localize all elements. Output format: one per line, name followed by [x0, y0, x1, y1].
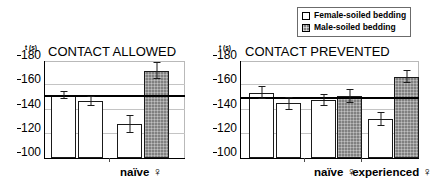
plot-area-left: 100120140160180: [44, 61, 185, 159]
error-bar: [51, 91, 76, 99]
error-bar-cap-bottom: [320, 105, 327, 106]
error-bar-stem: [129, 115, 130, 133]
x-axis-group-separator: [109, 158, 110, 162]
error-bar: [394, 70, 419, 83]
y-axis-tick-label: 120: [21, 122, 45, 134]
y-axis-tick-label: 140: [21, 98, 45, 110]
y-axis-tick-label: 140: [217, 98, 241, 110]
bar: [337, 96, 362, 158]
y-axis-tick-mark: [17, 79, 21, 80]
y-axis-tick-label: 160: [21, 73, 45, 85]
error-bar-cap-bottom: [285, 109, 292, 110]
error-bar: [78, 96, 103, 106]
error-bar: [276, 97, 301, 109]
legend-item-female: Female-soiled bedding: [302, 10, 406, 21]
figure-container: Female-soiled bedding Male-soiled beddin…: [0, 0, 431, 191]
legend: Female-soiled bedding Male-soiled beddin…: [297, 7, 411, 37]
y-axis-tick-label: 180: [217, 49, 241, 61]
plot-area-right: 100120140160180: [240, 61, 419, 159]
y-axis-tick-mark: [17, 55, 21, 56]
legend-label-male: Male-soiled bedding: [314, 23, 396, 32]
y-axis-tick-mark: [17, 104, 21, 105]
error-bar: [249, 86, 274, 98]
legend-item-male: Male-soiled bedding: [302, 22, 406, 33]
error-bar: [144, 62, 169, 79]
error-bar-cap-top: [87, 96, 94, 97]
error-bar-cap-top: [320, 94, 327, 95]
y-axis-tick-mark: [213, 55, 217, 56]
error-bar-cap-top: [126, 115, 133, 116]
y-axis-tick-mark: [213, 152, 217, 153]
error-bar-cap-bottom: [258, 98, 265, 99]
error-bar-cap-top: [153, 62, 160, 63]
error-bar-stem: [349, 89, 350, 104]
error-bar-cap-top: [60, 91, 67, 92]
error-bar-stem: [406, 70, 407, 83]
error-bar-cap-top: [403, 70, 410, 71]
x-axis-group-label: naïve ♀: [120, 166, 162, 179]
y-axis-tick-label: 180: [21, 49, 45, 61]
error-bar-cap-top: [285, 97, 292, 98]
x-axis-group-label: experienced ♀: [352, 166, 431, 179]
legend-swatch-white-icon: [302, 12, 310, 20]
error-bar-cap-top: [346, 89, 353, 90]
x-axis-group-separator: [361, 158, 362, 162]
female-symbol-icon: ♀: [422, 165, 431, 179]
y-axis-tick-mark: [213, 128, 217, 129]
x-axis-group-label-text: naïve: [120, 166, 149, 178]
y-axis-tick-mark: [213, 79, 217, 80]
y-axis-tick-mark: [213, 104, 217, 105]
panel-title-left: CONTACT ALLOWED: [48, 44, 176, 59]
error-bar-cap-bottom: [346, 102, 353, 103]
panel-title-right: CONTACT PREVENTED: [245, 44, 390, 59]
x-axis-group-separator: [304, 158, 305, 162]
error-bar: [368, 112, 393, 127]
error-bar-cap-bottom: [153, 78, 160, 79]
error-bar-cap-bottom: [87, 105, 94, 106]
error-bar-stem: [156, 62, 157, 79]
error-bar: [117, 115, 142, 133]
female-symbol-icon: ♀: [153, 165, 162, 179]
x-axis-group-label-text: experienced: [352, 166, 419, 178]
error-bar: [311, 94, 336, 106]
bar: [276, 103, 301, 158]
y-axis-tick-mark: [17, 152, 21, 153]
error-bar-cap-top: [377, 112, 384, 113]
error-bar-cap-bottom: [126, 132, 133, 133]
error-bar-cap-bottom: [377, 125, 384, 126]
error-bar-stem: [380, 112, 381, 127]
x-axis-group-label: naïve ♀: [314, 166, 356, 179]
y-axis-tick-mark: [17, 128, 21, 129]
error-bar-cap-bottom: [60, 98, 67, 99]
bar: [394, 77, 419, 158]
legend-label-female: Female-soiled bedding: [314, 11, 406, 20]
bar: [78, 101, 103, 158]
x-axis-group-label-text: naïve: [314, 166, 343, 178]
bar: [51, 95, 76, 158]
bar: [249, 93, 274, 158]
gridline: [241, 84, 419, 85]
error-bar: [337, 89, 362, 104]
y-axis-tick-label: 100: [21, 146, 45, 158]
error-bar-cap-bottom: [403, 82, 410, 83]
y-axis-tick-label: 160: [217, 73, 241, 85]
y-axis-tick-label: 120: [217, 122, 241, 134]
bar: [144, 71, 169, 158]
bar: [311, 100, 336, 158]
y-axis-tick-label: 100: [217, 146, 241, 158]
legend-swatch-gray-icon: [302, 24, 310, 32]
error-bar-cap-top: [258, 86, 265, 87]
